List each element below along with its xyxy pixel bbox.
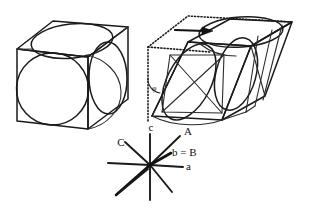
axis-ray-a-negative [108, 163, 150, 165]
left-cube-corner-tangency-right [122, 27, 128, 31]
left-sphere-right-ellipse [88, 42, 127, 115]
shear-angle-marker: φ [148, 78, 160, 93]
axis-ray-A-negative-shadow [120, 169, 148, 192]
axis-label-A: A [184, 125, 192, 137]
axis-label-a: a [186, 160, 191, 172]
left-sphere-front-circle [15, 51, 91, 127]
shear-arrow-head [202, 27, 213, 35]
sheared-cell-facet-d [263, 25, 282, 100]
axis-ray-C-positive [125, 142, 150, 165]
shear-direction-arrow [175, 27, 213, 35]
axis-label-c: c [149, 121, 154, 133]
shear-angle-label: φ [152, 84, 157, 93]
crystallographic-axis-star: c A b = B a C [108, 121, 197, 200]
left-cube-front-face [17, 49, 88, 129]
axis-label-C: C [117, 136, 124, 148]
right-cell-group: φ [148, 14, 292, 128]
left-cell-group [15, 20, 128, 129]
original-cell-outline-lower-edge [148, 47, 210, 52]
axis-ray-C-negative [150, 165, 172, 192]
sheared-ellipsoid-front-ellipse [151, 35, 227, 128]
axis-label-b-equals-B: b = B [172, 146, 197, 158]
axis-ray-a-positive [150, 165, 183, 167]
shear-arrow-shaft [175, 30, 205, 31]
figure-canvas: φ c A b = B a C [0, 0, 310, 212]
figure-root: φ c A b = B a C [0, 0, 310, 212]
